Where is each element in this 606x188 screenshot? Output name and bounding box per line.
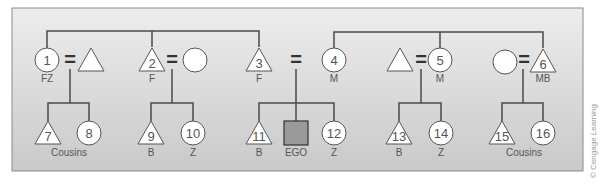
node-label: M xyxy=(330,73,338,84)
marriage-symbol: = xyxy=(415,48,427,70)
node-label: B xyxy=(256,147,263,158)
node-number: 4 xyxy=(330,53,337,68)
kinship-diagram: 1 FZ = 2 F = 3 F = 4 M = 5 M xyxy=(0,0,606,188)
node-label: B xyxy=(396,147,403,158)
node-number: 11 xyxy=(252,129,266,144)
node-f-wife xyxy=(183,48,207,72)
node-label: B xyxy=(148,147,155,158)
node-label: Z xyxy=(190,147,196,158)
svg-text:=: = xyxy=(290,48,302,70)
marriage-symbol: = xyxy=(290,48,302,70)
node-number: 15 xyxy=(495,129,509,144)
node-number: 5 xyxy=(436,53,443,68)
node-label: Z xyxy=(331,147,337,158)
node-label: M xyxy=(436,73,444,84)
node-number: 3 xyxy=(255,56,262,71)
node-number: 14 xyxy=(434,126,448,141)
node-number: 6 xyxy=(539,57,546,72)
node-8: 8 xyxy=(77,121,101,145)
svg-text:=: = xyxy=(415,48,427,70)
node-mb-wife xyxy=(493,50,517,74)
cousins-label-left: Cousins xyxy=(51,147,87,158)
node-number: 8 xyxy=(85,126,92,141)
node-label: EGO xyxy=(285,147,307,158)
svg-text:=: = xyxy=(64,48,76,70)
marriage-symbol: = xyxy=(518,48,530,70)
node-number: 9 xyxy=(147,129,154,144)
copyright-credit: © Cengage Learning xyxy=(584,100,604,188)
node-16: 16 xyxy=(531,121,555,145)
node-label: F xyxy=(256,73,262,84)
cousins-label-right: Cousins xyxy=(506,147,542,158)
node-number: 1 xyxy=(43,53,50,68)
node-number: 16 xyxy=(536,126,550,141)
node-number: 12 xyxy=(327,126,341,141)
node-label: MB xyxy=(536,73,551,84)
marriage-symbol: = xyxy=(64,48,76,70)
node-number: 10 xyxy=(186,126,200,141)
node-label: Z xyxy=(438,147,444,158)
node-ego: EGO xyxy=(284,121,308,158)
svg-text:=: = xyxy=(166,48,178,70)
node-label: F xyxy=(149,73,155,84)
node-number: 7 xyxy=(44,129,51,144)
node-label: FZ xyxy=(41,73,53,84)
marriage-symbol: = xyxy=(166,48,178,70)
node-number: 2 xyxy=(148,56,155,71)
svg-text:=: = xyxy=(518,48,530,70)
node-number: 13 xyxy=(392,129,406,144)
credit-text: © Cengage Learning xyxy=(589,104,598,178)
